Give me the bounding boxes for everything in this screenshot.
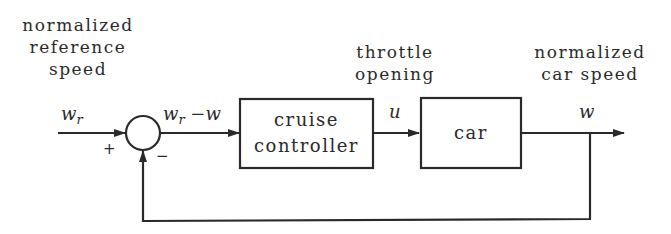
error-signal-symbol: w (163, 103, 178, 124)
controller-block-label: cruise controller (240, 107, 373, 159)
reference-label-line-1: normalized (22, 14, 134, 36)
reference-speed-label: normalized reference speed (22, 14, 134, 80)
car-label-line-1: car (421, 120, 521, 146)
reference-label-line-3: speed (22, 58, 134, 80)
controller-label-line-2: controller (240, 133, 373, 159)
car-speed-label-line-2: car speed (520, 63, 660, 85)
throttle-label-line-2: opening (350, 63, 440, 85)
output-signal-label: w (579, 101, 594, 122)
control-signal-symbol: u (389, 101, 401, 122)
input-signal-subscript: r (76, 112, 82, 127)
throttle-opening-label: throttle opening (350, 41, 440, 85)
error-signal-subscript: r (178, 112, 184, 127)
plus-sign: + (103, 140, 116, 158)
error-signal-rest: −w (185, 103, 221, 124)
error-signal-label: wr −w (163, 103, 221, 124)
input-signal-label: wr (61, 103, 83, 124)
control-signal-label: u (389, 101, 401, 122)
reference-label-line-2: reference (22, 36, 134, 58)
minus-sign: − (156, 147, 169, 165)
controller-label-line-1: cruise (240, 107, 373, 133)
input-signal-symbol: w (61, 103, 76, 124)
throttle-label-line-1: throttle (350, 41, 440, 63)
car-block-label: car (421, 120, 521, 146)
summing-junction (126, 116, 160, 150)
output-signal-symbol: w (579, 101, 594, 122)
car-speed-label: normalized car speed (520, 41, 660, 85)
car-speed-label-line-1: normalized (520, 41, 660, 63)
